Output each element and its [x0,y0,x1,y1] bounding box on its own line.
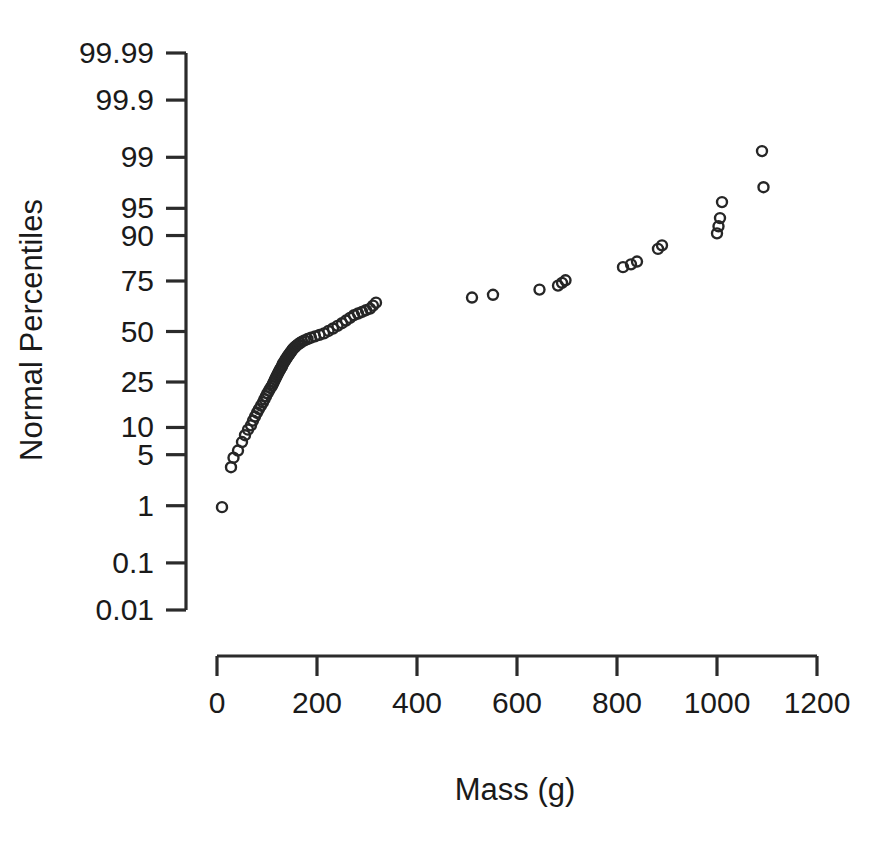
y-axis: 99.9999.999959075502510510.10.01 [79,36,186,626]
x-axis-title: Mass (g) [455,772,576,807]
data-point [759,182,769,192]
y-axis-title: Normal Percentiles [14,199,49,461]
data-point [535,285,545,295]
y-axis-tick-label: 99 [121,140,154,173]
y-axis-tick-label: 0.01 [96,593,154,626]
y-axis-tick-label: 75 [121,264,154,297]
x-axis-tick-label: 400 [392,686,442,719]
y-axis-tick-label: 25 [121,365,154,398]
y-axis-tick-label: 99.99 [79,36,154,69]
x-axis: 020040060080010001200 [209,656,851,719]
y-axis-tick-label: 0.1 [112,546,154,579]
normal-probability-plot: 99.9999.999959075502510510.10.01 0200400… [0,0,894,847]
x-axis-tick-label: 1200 [784,686,851,719]
y-axis-tick-label: 5 [137,438,154,471]
data-point [467,293,477,303]
data-point [757,146,767,156]
data-point [217,502,227,512]
y-axis-tick-label: 50 [121,315,154,348]
y-axis-tick-label: 1 [137,489,154,522]
x-axis-tick-label: 1000 [684,686,751,719]
x-axis-tick-label: 200 [292,686,342,719]
data-points [217,146,769,512]
x-axis-tick-label: 600 [492,686,542,719]
y-axis-tick-label: 99.9 [96,83,154,116]
chart-canvas: 99.9999.999959075502510510.10.01 0200400… [0,0,894,847]
y-axis-tick-label: 90 [121,219,154,252]
data-point [488,290,498,300]
x-axis-tick-label: 800 [592,686,642,719]
x-axis-tick-label: 0 [209,686,226,719]
data-point [717,197,727,207]
